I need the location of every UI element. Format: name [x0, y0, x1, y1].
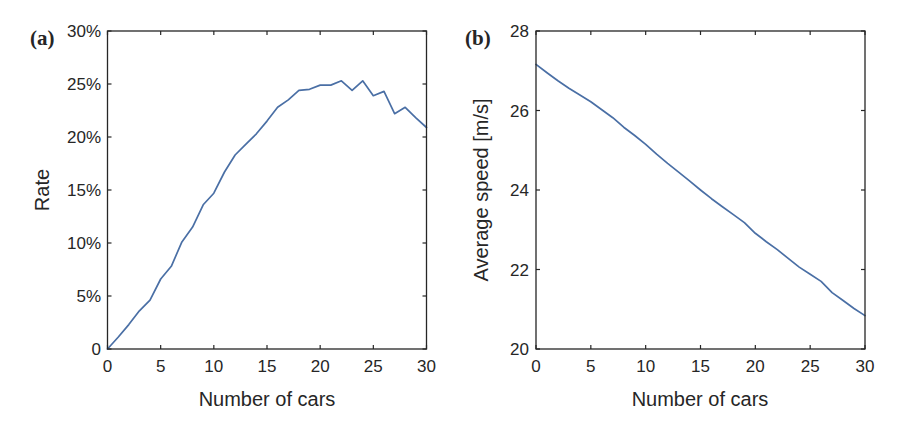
panel-b-x-axis-label: Number of cars	[632, 388, 769, 410]
y-tick-label: 24	[510, 181, 529, 200]
panel-a-y-tick-labels: 05%10%15%20%25%30%	[67, 22, 101, 359]
panel-b-speed-chart: (b) 2022242628 051015202530 Number of ca…	[465, 22, 874, 410]
panel-a-ticks	[108, 31, 427, 349]
y-tick-label: 10%	[67, 234, 101, 253]
panel-a-x-axis-label: Number of cars	[199, 388, 336, 410]
x-tick-label: 5	[156, 357, 165, 376]
x-tick-label: 15	[258, 357, 277, 376]
y-tick-label: 26	[510, 102, 529, 121]
x-tick-label: 0	[103, 357, 112, 376]
x-tick-label: 10	[636, 357, 655, 376]
panel-a-rate-line	[108, 81, 427, 349]
x-tick-label: 25	[364, 357, 383, 376]
panel-b-y-axis-label: Average speed [m/s]	[470, 98, 492, 281]
x-tick-label: 25	[801, 357, 820, 376]
panel-b-label: (b)	[465, 26, 491, 50]
y-tick-label: 5%	[76, 287, 101, 306]
x-tick-label: 20	[746, 357, 765, 376]
y-tick-label: 20%	[67, 128, 101, 147]
panel-a-label: (a)	[30, 26, 55, 50]
x-tick-label: 15	[691, 357, 710, 376]
panel-b-speed-line	[536, 64, 865, 315]
y-tick-label: 28	[510, 22, 529, 41]
x-tick-label: 20	[311, 357, 330, 376]
panel-a-x-tick-labels: 051015202530	[103, 357, 436, 376]
x-tick-label: 30	[417, 357, 436, 376]
x-tick-label: 30	[856, 357, 875, 376]
x-tick-label: 10	[204, 357, 223, 376]
y-tick-label: 20	[510, 340, 529, 359]
panel-a-rate-chart: (a) 05%10%15%20%25%30% 051015202530 Numb…	[30, 22, 436, 410]
panel-a-axes-frame	[108, 31, 427, 349]
figure: (a) 05%10%15%20%25%30% 051015202530 Numb…	[0, 0, 902, 432]
x-tick-label: 0	[531, 357, 540, 376]
panel-b-x-tick-labels: 051015202530	[531, 357, 874, 376]
y-tick-label: 30%	[67, 22, 101, 41]
y-tick-label: 25%	[67, 75, 101, 94]
panel-b-y-tick-labels: 2022242628	[510, 22, 529, 359]
y-tick-label: 22	[510, 261, 529, 280]
y-tick-label: 0	[92, 340, 101, 359]
y-tick-label: 15%	[67, 181, 101, 200]
panel-a-y-axis-label: Rate	[31, 169, 53, 211]
x-tick-label: 5	[586, 357, 595, 376]
